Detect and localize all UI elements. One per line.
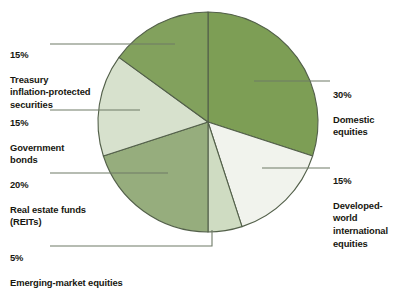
callout-percent-treasury: 15%	[10, 49, 130, 62]
callout-label-real-estate: Real estate funds (REITs)	[10, 204, 140, 229]
callout-percent-government-bonds: 15%	[10, 117, 130, 130]
callout-domestic-equities: 30% Domestic equities	[333, 76, 409, 152]
callout-emerging-market-equities: 5% Emerging-market equities	[10, 239, 210, 292]
callout-percent-domestic: 30%	[333, 89, 409, 102]
callout-label-developed-world: Developed- world international equities	[333, 200, 411, 250]
callout-label-government-bonds: Government bonds	[10, 142, 130, 167]
callout-percent-real-estate: 20%	[10, 179, 140, 192]
callout-label-emerging-market: Emerging-market equities	[10, 277, 210, 290]
callout-percent-emerging-market: 5%	[10, 252, 210, 265]
callout-percent-developed-world: 15%	[333, 175, 411, 188]
callout-developed-world-equities: 15% Developed- world international equit…	[333, 162, 411, 263]
callout-label-domestic: Domestic equities	[333, 114, 409, 139]
callout-real-estate-funds: 20% Real estate funds (REITs)	[10, 166, 140, 242]
